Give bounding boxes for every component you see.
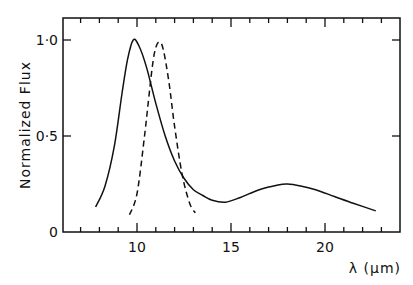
plot-frame <box>63 18 400 232</box>
y-tick-label: 0·5 <box>36 128 58 144</box>
x-tick-label: 15 <box>222 239 240 255</box>
x-tick-label: 10 <box>128 239 146 255</box>
axis-ticks <box>63 18 400 232</box>
y-axis-title: Normalized Flux <box>17 61 33 189</box>
y-tick-label: 1·0 <box>36 32 58 48</box>
tick-labels: 10152000·51·0 <box>36 32 334 255</box>
x-tick-label: 20 <box>316 239 334 255</box>
plot-border <box>63 18 400 232</box>
data-series <box>96 39 376 214</box>
y-tick-label: 0 <box>49 224 58 240</box>
chart: 10152000·51·0 Normalized Flux λ (μm) <box>0 0 413 285</box>
x-axis-title: λ (μm) <box>349 260 401 276</box>
